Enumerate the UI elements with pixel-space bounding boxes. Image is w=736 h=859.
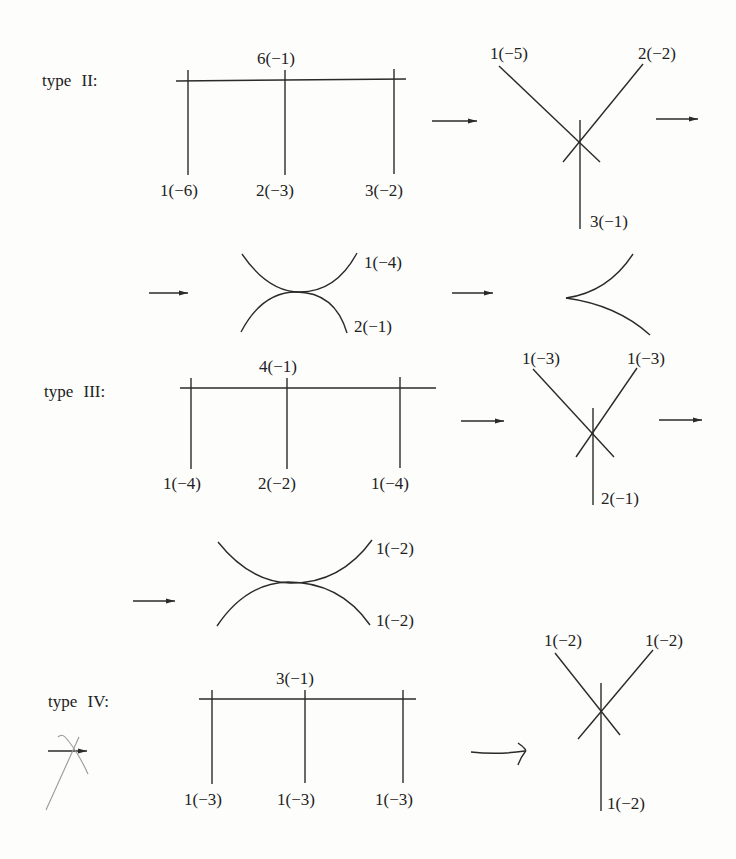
- type-ii-tree: [176, 69, 406, 175]
- type-iii-star-top-right-label: 1(−3): [627, 350, 665, 367]
- type-ii-leaf-label: 2(−3): [256, 182, 294, 199]
- type-iii-tree-top-label: 4(−1): [259, 358, 297, 375]
- type-iv-star: [555, 650, 653, 811]
- type-iii-tangent-lower-label: 1(−2): [376, 612, 414, 629]
- type-iii-leaf-label: 2(−2): [258, 475, 296, 492]
- type-iv-star-top-left-label: 1(−2): [544, 632, 582, 649]
- diagram-lines: [0, 0, 736, 859]
- type-iii-star-bottom-label: 2(−1): [601, 490, 639, 507]
- type-ii-tangent-upper-label: 1(−4): [364, 254, 402, 271]
- type-iii-tree: [180, 377, 436, 469]
- type-iv-leaf-label: 1(−3): [184, 791, 222, 808]
- type-iii-tangent-curves: [217, 540, 372, 626]
- hand-drawn-arrow-icon: [471, 743, 526, 765]
- type-iv-tree: [199, 690, 416, 784]
- type-iii-leaf-label: 1(−4): [371, 475, 409, 492]
- type-ii-star: [499, 64, 643, 229]
- type-iii-tangent-upper-label: 1(−2): [376, 540, 414, 557]
- type-ii-tangent-lower-label: 2(−1): [354, 318, 392, 335]
- type-iv-label: type IV:: [48, 693, 109, 710]
- type-iv-star-top-right-label: 1(−2): [645, 632, 683, 649]
- type-iii-star: [533, 368, 637, 505]
- type-ii-leaf-label: 1(−6): [160, 182, 198, 199]
- type-iv-tree-top-label: 3(−1): [276, 670, 314, 687]
- crossed-out-arrow-icon: [46, 735, 88, 810]
- type-iv-leaf-label: 1(−3): [277, 791, 315, 808]
- type-ii-star-bottom-label: 3(−1): [590, 213, 628, 230]
- figure-canvas: type II: type III: type IV: 6(−1) 1(−6) …: [0, 0, 736, 859]
- type-ii-leaf-label: 3(−2): [365, 182, 403, 199]
- type-ii-label: type II:: [42, 72, 98, 89]
- type-ii-star-top-right-label: 2(−2): [638, 45, 676, 62]
- type-ii-star-top-left-label: 1(−5): [490, 45, 528, 62]
- type-iv-star-bottom-label: 1(−2): [607, 795, 645, 812]
- type-ii-tree-top-label: 6(−1): [257, 50, 295, 67]
- cusp-curve: [566, 254, 650, 335]
- type-iii-leaf-label: 1(−4): [163, 475, 201, 492]
- type-iv-leaf-label: 1(−3): [375, 791, 413, 808]
- type-iii-star-top-left-label: 1(−3): [522, 350, 560, 367]
- type-iii-label: type III:: [44, 383, 105, 400]
- type-ii-tangent-curves: [241, 253, 357, 333]
